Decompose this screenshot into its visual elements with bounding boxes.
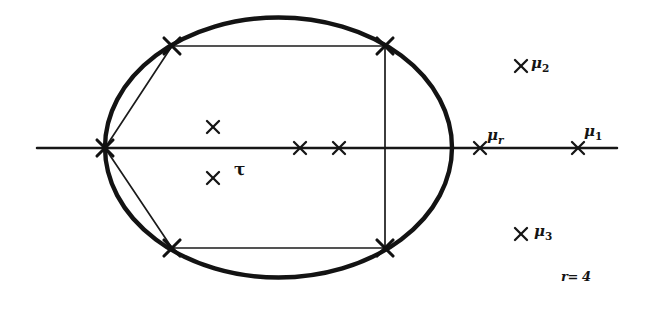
label-mu-3-base: μ (534, 222, 545, 240)
label-mu-r-base: μ (487, 126, 498, 144)
label-tau: τ (234, 161, 245, 178)
marker-interior-mark-upper (207, 121, 219, 133)
label-mu-2: μ2 (531, 56, 549, 74)
marker-mark-mu-3 (515, 228, 527, 240)
marker-mark-mu-2 (515, 60, 527, 72)
label-mu-r-subscript: r (498, 134, 504, 146)
chord-left-upper-diagonal (105, 46, 172, 148)
chord-left-lower-diagonal (105, 148, 172, 248)
label-mu-3: μ3 (534, 224, 552, 242)
label-mu-2-base: μ (531, 54, 542, 72)
label-r-value: r= 4 (561, 270, 591, 283)
label-mu-1: μ1 (584, 124, 602, 142)
point-markers (207, 60, 584, 240)
label-mu-r: μr (487, 128, 504, 146)
eigenvalue-ellipse-diagram: μ2 μr μ1 μ3 τ r= 4 (0, 0, 646, 312)
label-mu-1-base: μ (584, 122, 595, 140)
diagram-canvas (0, 0, 646, 312)
label-mu-3-subscript: 3 (545, 230, 552, 242)
label-mu-1-subscript: 1 (595, 130, 602, 142)
marker-interior-mark-lower (207, 172, 219, 184)
label-mu-2-subscript: 2 (542, 62, 549, 74)
